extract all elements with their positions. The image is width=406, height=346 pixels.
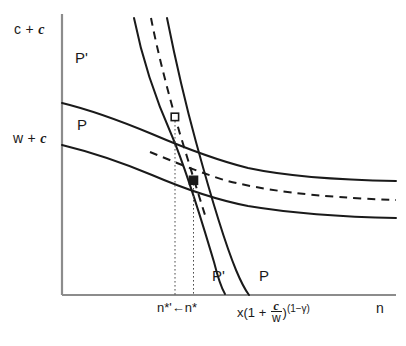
- flat-curves-group: [62, 103, 396, 218]
- y-axis-label-mid: w + c: [13, 131, 47, 146]
- curve-label-p-prime-steep: P': [212, 268, 225, 283]
- x-axis-label: n: [376, 301, 384, 315]
- figure-container: c + c w + c n P' P P' P n*'←n* x(1 + cw)…: [0, 0, 406, 346]
- y-axis-label-top-plain: c +: [14, 21, 38, 37]
- tick-label-x-intercept: x(1 + cw)(1−γ): [237, 302, 310, 325]
- y-axis-label-top: c + c: [14, 22, 45, 37]
- formula-fraction: cw: [271, 301, 282, 324]
- curve-label-p-prime-flat: P': [75, 50, 88, 65]
- curve-p-prime-flat: [62, 103, 396, 181]
- steep-curves-group: [134, 18, 249, 295]
- formula-exponent: (1−γ): [287, 303, 310, 314]
- tick-label-equilibrium: n*'←n*: [157, 301, 197, 314]
- y-axis-label-mid-italic: c: [40, 131, 47, 146]
- marker-equilibrium-old: [189, 176, 197, 184]
- y-axis-label-top-italic: c: [38, 22, 45, 37]
- formula-denominator: w: [271, 312, 282, 324]
- plot-canvas: [0, 0, 406, 346]
- marker-equilibrium-new: [171, 113, 178, 120]
- formula-prefix: x(1 +: [237, 305, 270, 320]
- curve-label-p-flat: P: [77, 117, 87, 132]
- y-axis-label-mid-plain: w +: [13, 130, 40, 146]
- curve-label-p-steep: P: [259, 268, 269, 283]
